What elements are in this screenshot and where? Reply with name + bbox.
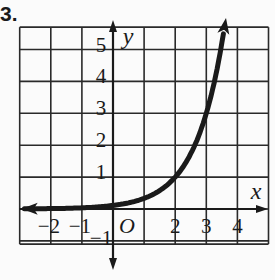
origin-label: O (119, 213, 135, 238)
axis-labels: −2−123454321−1Oxy (38, 23, 262, 250)
x-tick-label: 3 (201, 214, 212, 238)
exponential-curve (24, 34, 223, 209)
y-tick-label: 2 (96, 128, 107, 152)
grid (20, 27, 269, 244)
x-tick-label: −2 (38, 214, 60, 238)
x-axis-label: x (250, 178, 262, 204)
x-tick-label: 2 (170, 214, 181, 238)
x-tick-label: 4 (232, 214, 243, 238)
y-tick-label: 1 (96, 160, 107, 184)
y-axis-label: y (121, 23, 134, 49)
y-axis-arrow-up-icon (109, 20, 117, 32)
x-tick-label: −1 (69, 214, 91, 238)
y-tick-label: 4 (96, 64, 107, 88)
graph: −2−123454321−1Oxy (0, 0, 275, 280)
y-tick-label: −1 (90, 226, 112, 250)
y-tick-label: 3 (96, 96, 107, 120)
y-axis-arrow-down-icon (109, 258, 117, 270)
x-axis-arrow-icon (256, 205, 268, 213)
y-tick-label: 5 (96, 33, 107, 57)
